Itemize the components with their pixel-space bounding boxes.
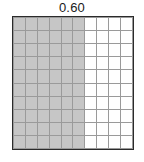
grid-cell-empty bbox=[109, 44, 120, 56]
grid-cell-empty bbox=[121, 110, 132, 122]
grid-cell-shaded bbox=[14, 31, 25, 43]
grid-cell-shaded bbox=[38, 31, 49, 43]
grid-cell-shaded bbox=[14, 110, 25, 122]
grid-cell-empty bbox=[85, 110, 96, 122]
grid-cell-shaded bbox=[50, 84, 61, 96]
grid-cell-shaded bbox=[73, 136, 84, 148]
grid-cell-shaded bbox=[62, 136, 73, 148]
grid-cell-shaded bbox=[50, 123, 61, 135]
grid-cell-shaded bbox=[50, 110, 61, 122]
hundredths-grid-border bbox=[12, 16, 134, 150]
grid-cell-shaded bbox=[73, 70, 84, 82]
grid-cell-empty bbox=[121, 31, 132, 43]
grid-cell-empty bbox=[109, 123, 120, 135]
grid-cell-shaded bbox=[38, 123, 49, 135]
grid-cell-shaded bbox=[50, 18, 61, 30]
grid-cell-shaded bbox=[62, 84, 73, 96]
grid-cell-shaded bbox=[26, 84, 37, 96]
grid-cell-shaded bbox=[26, 18, 37, 30]
grid-cell-shaded bbox=[62, 44, 73, 56]
grid-cell-shaded bbox=[26, 57, 37, 69]
grid-cell-shaded bbox=[14, 136, 25, 148]
grid-cell-empty bbox=[85, 57, 96, 69]
grid-cell-shaded bbox=[14, 97, 25, 109]
grid-cell-shaded bbox=[62, 18, 73, 30]
grid-cell-empty bbox=[85, 97, 96, 109]
grid-cell-empty bbox=[97, 18, 108, 30]
grid-cell-empty bbox=[109, 97, 120, 109]
grid-cell-empty bbox=[109, 136, 120, 148]
grid-cell-shaded bbox=[50, 136, 61, 148]
grid-cell-empty bbox=[121, 123, 132, 135]
grid-cell-shaded bbox=[26, 110, 37, 122]
grid-cell-shaded bbox=[26, 123, 37, 135]
grid-cell-empty bbox=[85, 18, 96, 30]
grid-cell-empty bbox=[97, 84, 108, 96]
hundredths-grid bbox=[14, 18, 132, 148]
grid-cell-shaded bbox=[73, 84, 84, 96]
grid-cell-shaded bbox=[73, 57, 84, 69]
grid-cell-shaded bbox=[73, 123, 84, 135]
grid-cell-shaded bbox=[50, 57, 61, 69]
grid-cell-shaded bbox=[38, 136, 49, 148]
grid-cell-shaded bbox=[38, 97, 49, 109]
grid-cell-empty bbox=[85, 44, 96, 56]
grid-cell-empty bbox=[85, 123, 96, 135]
grid-cell-shaded bbox=[14, 57, 25, 69]
grid-cell-empty bbox=[121, 97, 132, 109]
grid-cell-shaded bbox=[26, 136, 37, 148]
grid-cell-shaded bbox=[50, 97, 61, 109]
grid-cell-shaded bbox=[73, 18, 84, 30]
grid-cell-empty bbox=[121, 44, 132, 56]
grid-cell-shaded bbox=[62, 70, 73, 82]
grid-cell-empty bbox=[109, 57, 120, 69]
grid-cell-shaded bbox=[62, 123, 73, 135]
grid-cell-shaded bbox=[38, 18, 49, 30]
grid-cell-shaded bbox=[50, 31, 61, 43]
grid-cell-empty bbox=[85, 84, 96, 96]
grid-cell-shaded bbox=[14, 18, 25, 30]
grid-cell-shaded bbox=[62, 110, 73, 122]
grid-cell-empty bbox=[85, 70, 96, 82]
grid-cell-shaded bbox=[73, 31, 84, 43]
grid-cell-shaded bbox=[73, 110, 84, 122]
grid-cell-empty bbox=[85, 136, 96, 148]
grid-cell-empty bbox=[97, 57, 108, 69]
grid-cell-shaded bbox=[38, 84, 49, 96]
grid-cell-shaded bbox=[38, 57, 49, 69]
grid-cell-empty bbox=[109, 70, 120, 82]
grid-cell-shaded bbox=[14, 123, 25, 135]
grid-cell-shaded bbox=[50, 70, 61, 82]
grid-cell-shaded bbox=[38, 44, 49, 56]
grid-cell-empty bbox=[109, 18, 120, 30]
grid-cell-shaded bbox=[62, 31, 73, 43]
grid-cell-empty bbox=[97, 123, 108, 135]
grid-cell-empty bbox=[121, 136, 132, 148]
grid-cell-shaded bbox=[38, 110, 49, 122]
grid-cell-empty bbox=[109, 31, 120, 43]
grid-cell-shaded bbox=[26, 31, 37, 43]
grid-cell-shaded bbox=[73, 44, 84, 56]
grid-cell-shaded bbox=[62, 57, 73, 69]
grid-cell-shaded bbox=[62, 97, 73, 109]
grid-cell-empty bbox=[97, 110, 108, 122]
grid-cell-shaded bbox=[38, 70, 49, 82]
grid-cell-shaded bbox=[26, 44, 37, 56]
chart-title: 0.60 bbox=[0, 1, 144, 15]
grid-cell-empty bbox=[97, 31, 108, 43]
grid-cell-empty bbox=[97, 97, 108, 109]
grid-cell-empty bbox=[97, 70, 108, 82]
grid-cell-shaded bbox=[14, 70, 25, 82]
grid-cell-empty bbox=[85, 31, 96, 43]
grid-cell-shaded bbox=[14, 44, 25, 56]
grid-cell-shaded bbox=[50, 44, 61, 56]
decimal-grid-figure: 0.60 bbox=[0, 0, 144, 162]
grid-cell-shaded bbox=[26, 97, 37, 109]
grid-cell-empty bbox=[97, 44, 108, 56]
grid-cell-shaded bbox=[26, 70, 37, 82]
grid-cell-empty bbox=[121, 84, 132, 96]
grid-cell-empty bbox=[121, 57, 132, 69]
grid-cell-empty bbox=[109, 110, 120, 122]
grid-cell-empty bbox=[97, 136, 108, 148]
grid-cell-empty bbox=[109, 84, 120, 96]
